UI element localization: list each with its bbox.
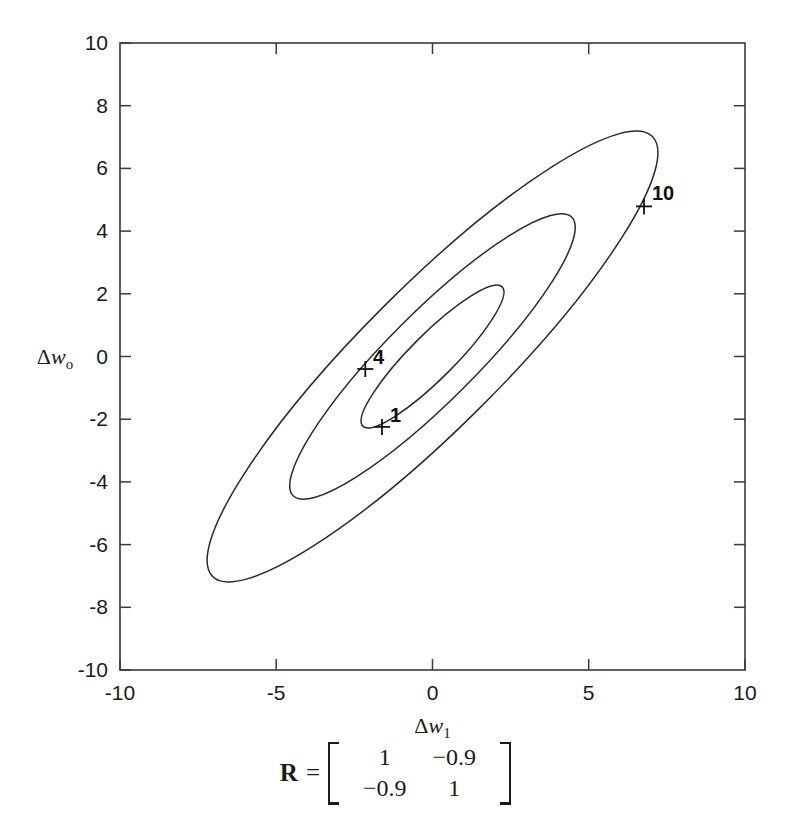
y-tick-labels: 10 8 6 4 2 0 -2 -4 -6 -8 -10 xyxy=(78,31,109,681)
y-tick-label: 0 xyxy=(96,345,108,368)
contour-ellipses xyxy=(163,87,702,626)
matrix-table: 1 −0.9 −0.9 1 xyxy=(350,742,489,805)
bracket-right-icon xyxy=(500,742,511,805)
y-tick-label: -6 xyxy=(89,533,108,556)
contour-figure: 10 8 6 4 2 0 -2 -4 -6 -8 -10 -10 -5 0 5 … xyxy=(0,0,791,834)
x-tick-label: -10 xyxy=(105,681,135,704)
bracket-left-icon xyxy=(328,742,339,805)
contour-plot-svg: 10 8 6 4 2 0 -2 -4 -6 -8 -10 -10 -5 0 5 … xyxy=(0,0,791,834)
matrix-row: 1 −0.9 xyxy=(350,742,489,773)
y-tick-label: 4 xyxy=(96,219,108,242)
x-tick-label: 0 xyxy=(427,681,439,704)
x-tick-label: 5 xyxy=(583,681,595,704)
y-tick-label: -4 xyxy=(89,470,108,493)
matrix-cell: −0.9 xyxy=(350,773,420,804)
y-tick-label: -2 xyxy=(89,407,108,430)
y-axis-ticks xyxy=(120,43,131,670)
plot-frame xyxy=(120,43,745,670)
contour-point-labels: 1 4 10 xyxy=(373,182,674,426)
matrix-cell: 1 xyxy=(350,742,420,773)
contour-label-10: 10 xyxy=(652,182,674,204)
contour-label-4: 4 xyxy=(373,346,385,368)
marker-4 xyxy=(357,361,373,377)
contour-markers xyxy=(357,198,652,435)
y-tick-label: -8 xyxy=(89,595,108,618)
x-axis-ticks xyxy=(120,659,745,670)
x-axis-ticks-top xyxy=(276,43,589,54)
y-tick-label: 10 xyxy=(85,31,108,54)
matrix-cell: −0.9 xyxy=(420,742,490,773)
y-tick-label: 8 xyxy=(96,94,108,117)
y-axis-ticks-right xyxy=(734,106,745,608)
y-axis-title: Δwo xyxy=(37,344,73,372)
matrix-caption: R = 1 −0.9 −0.9 1 xyxy=(0,742,791,805)
matrix-row: −0.9 1 xyxy=(350,773,489,804)
matrix-symbol: R xyxy=(280,759,298,787)
y-tick-label: -10 xyxy=(78,658,108,681)
contour-ellipse-4 xyxy=(262,186,603,527)
matrix-equals: = xyxy=(306,759,320,787)
x-axis-title: Δw1 xyxy=(414,713,450,741)
marker-10 xyxy=(636,198,652,214)
contour-label-1: 1 xyxy=(390,404,401,426)
x-tick-labels: -10 -5 0 5 10 xyxy=(105,681,757,704)
y-tick-label: 6 xyxy=(96,156,108,179)
x-tick-label: -5 xyxy=(267,681,286,704)
contour-ellipse-10 xyxy=(163,87,702,626)
y-tick-label: 2 xyxy=(96,282,108,305)
x-tick-label: 10 xyxy=(733,681,756,704)
matrix-cell: 1 xyxy=(420,773,490,804)
